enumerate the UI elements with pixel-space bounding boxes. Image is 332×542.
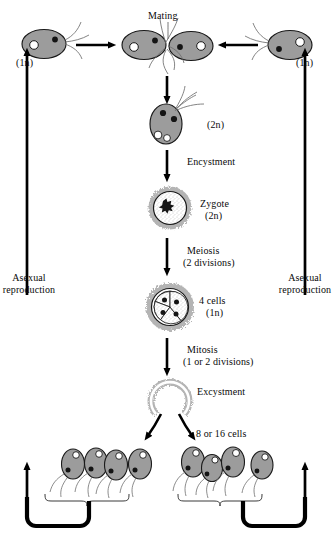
label-asexual-left-line1: Asexual: [2, 272, 56, 284]
label-zygote-name: Zygote: [200, 198, 229, 210]
offspring-cell: [242, 451, 273, 497]
life-cycle-diagram: Mating (1n) (1n) (2n) Encystment Zygote …: [0, 0, 332, 542]
label-asexual-right-line2: reproduction: [276, 284, 332, 296]
label-four-cells-ploidy: (1n): [206, 307, 223, 319]
label-asexual-left-line2: reproduction: [0, 284, 58, 296]
cell-gamete-right: [245, 23, 312, 60]
label-mating: Mating: [148, 10, 178, 22]
label-offspring-count: 8 or 16 cells: [196, 428, 246, 440]
offspring-cell: [50, 449, 85, 497]
cell-mating-left: [122, 31, 166, 60]
label-zygote-ploidy: (2n): [205, 210, 222, 222]
arrow-excystment-left: [147, 414, 161, 437]
label-mitosis: Mitosis: [187, 344, 218, 356]
label-zygote-motile-ploidy: (2n): [207, 119, 224, 131]
label-meiosis-detail: (2 divisions): [183, 257, 235, 269]
cell-gamete-left: [22, 22, 89, 59]
brace-right: [178, 494, 262, 506]
label-encystment: Encystment: [187, 156, 235, 168]
zygote-flagella: [175, 86, 204, 111]
cyst-ruptured: [151, 382, 189, 414]
offspring-group-left: [50, 448, 152, 498]
cell-mating-right: [169, 32, 213, 61]
four-daughter-cells: [154, 291, 188, 323]
offspring-group-right: [173, 447, 273, 498]
label-asexual-right-line1: Asexual: [278, 272, 332, 284]
diagram-canvas: [0, 0, 332, 542]
cyst-four-cells: [146, 283, 194, 331]
label-meiosis: Meiosis: [187, 245, 219, 257]
offspring-cell: [173, 447, 205, 496]
label-ploidy-left: (1n): [16, 57, 33, 69]
cell-zygote-motile: [150, 86, 204, 144]
label-ploidy-right: (1n): [296, 57, 313, 69]
cyst-zygote: [149, 187, 192, 230]
label-four-cells: 4 cells: [199, 295, 226, 307]
label-excystment: Excystment: [197, 386, 245, 398]
arrow-excystment-right: [179, 414, 193, 437]
label-mitosis-detail: (1 or 2 divisions): [183, 356, 253, 368]
